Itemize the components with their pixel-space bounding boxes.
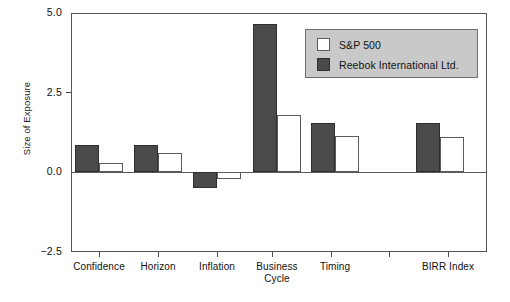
bar-reebok-0 — [75, 145, 99, 172]
bar-sp500-2 — [217, 172, 241, 178]
legend-swatch-reebok — [317, 58, 330, 71]
legend-label-reebok: Reebok International Ltd. — [339, 59, 459, 71]
bar-sp500-0 — [99, 163, 123, 173]
x-tick-mark-4 — [331, 252, 332, 257]
y-tick-label-2-5: 2.5 — [22, 86, 62, 98]
x-tick-mark-2 — [217, 252, 218, 257]
legend-label-sp500: S&P 500 — [339, 39, 381, 51]
x-tick-mark-0 — [99, 252, 100, 257]
legend-swatch-sp500 — [317, 38, 330, 51]
x-tick-mark-6 — [448, 252, 449, 257]
y-tick-label-5: 5.0 — [22, 6, 62, 18]
x-tick-mark-5 — [389, 252, 390, 257]
bar-reebok-2 — [193, 172, 217, 188]
x-tick-label-5: BIRR Index — [388, 261, 508, 273]
bar-reebok-5 — [416, 123, 440, 172]
y-tick-label-0: 0.0 — [22, 165, 62, 177]
chart-legend: S&P 500 Reebok International Ltd. — [305, 29, 478, 78]
bar-sp500-5 — [440, 137, 464, 172]
bar-sp500-1 — [158, 153, 182, 172]
bar-reebok-3 — [253, 24, 277, 172]
legend-item-sp500: S&P 500 — [317, 38, 381, 51]
legend-item-reebok: Reebok International Ltd. — [317, 58, 459, 71]
x-tick-label-4: Timing — [275, 261, 395, 273]
bar-sp500-4 — [335, 136, 359, 173]
bar-chart: Size of Exposure 5.0 2.5 0.0 −2.5 Confid… — [0, 0, 510, 302]
bar-reebok-4 — [311, 123, 335, 172]
bar-reebok-1 — [134, 145, 158, 172]
x-tick-mark-1 — [158, 252, 159, 257]
bar-sp500-3 — [277, 115, 301, 172]
y-tick-label-neg-2-5: −2.5 — [22, 245, 62, 257]
x-tick-mark-3 — [272, 252, 273, 257]
